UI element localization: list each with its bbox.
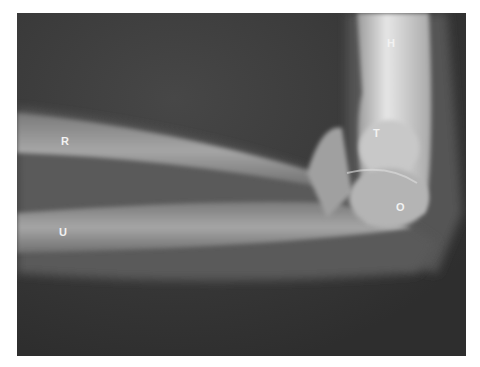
label-trochlea: T [373,128,380,139]
label-humerus: H [387,38,395,49]
xray-graphic [17,13,466,356]
label-ulna: U [59,227,67,238]
label-olecranon: O [396,202,405,213]
label-radius: R [61,136,69,147]
xray-image: H T R O U [17,13,466,356]
